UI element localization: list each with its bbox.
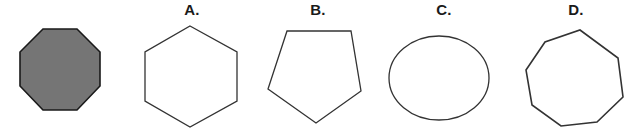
option-a[interactable]: A. <box>136 0 248 132</box>
question-canvas: A. B. C. D. <box>0 0 644 132</box>
option-b[interactable]: B. <box>262 0 374 132</box>
ellipse-icon <box>386 0 502 132</box>
option-d[interactable]: D. <box>518 0 634 132</box>
filled-octagon-icon <box>8 0 128 132</box>
pentagon-shape <box>268 31 361 123</box>
hexagon-shape <box>145 26 237 127</box>
ellipse-shape <box>389 36 489 120</box>
pentagon-icon <box>262 0 374 132</box>
filled-octagon-shape <box>20 29 100 110</box>
option-c[interactable]: C. <box>386 0 502 132</box>
octagon-outline-icon <box>518 0 634 132</box>
octagon-outline-shape <box>526 30 623 126</box>
prompt-shape-slot <box>8 0 128 132</box>
hexagon-icon <box>136 0 248 132</box>
